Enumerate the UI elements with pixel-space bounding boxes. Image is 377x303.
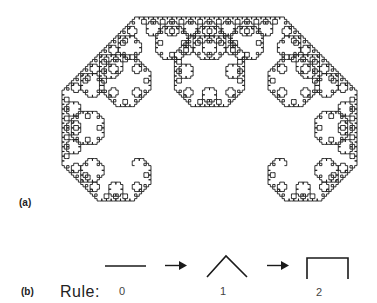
rule-diagram	[0, 240, 377, 290]
rule-step-2-bracket	[307, 258, 348, 279]
rule-word: Rule:	[60, 283, 100, 301]
fractal-curve	[62, 17, 357, 201]
panel-b-label: (b)	[21, 286, 34, 297]
right-arrow-icon	[267, 261, 289, 270]
rule-step-1-caret	[207, 256, 247, 277]
rule-step-1-label: 1	[220, 285, 226, 297]
panel-a-label: (a)	[19, 197, 31, 208]
levy-c-curve-fractal	[0, 0, 377, 230]
rule-step-0-label: 0	[119, 285, 125, 297]
right-arrow-icon	[165, 261, 187, 270]
rule-step-2-label: 2	[316, 286, 322, 298]
